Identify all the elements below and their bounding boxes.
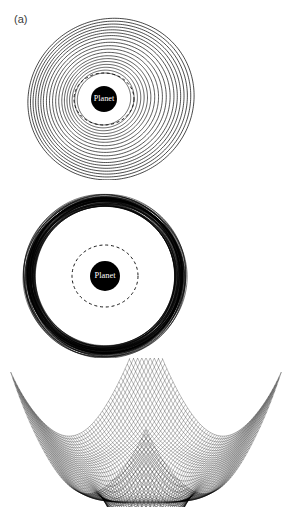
- panel-b: Planet (b): [0, 180, 287, 358]
- panel-c: (c): [0, 358, 287, 507]
- panel-a: Planet (a): [0, 0, 287, 180]
- figure-root: Planet (a) Planet (b) (c): [0, 0, 287, 507]
- panel-label-a: (a): [14, 13, 27, 25]
- panel-a-plot: Planet: [0, 0, 287, 180]
- panel-b-background: [0, 180, 287, 358]
- planet-label-b: Planet: [95, 271, 117, 280]
- panel-b-plot: Planet: [0, 180, 287, 358]
- planet-label-a: Planet: [94, 94, 115, 103]
- panel-c-plot: [0, 358, 287, 507]
